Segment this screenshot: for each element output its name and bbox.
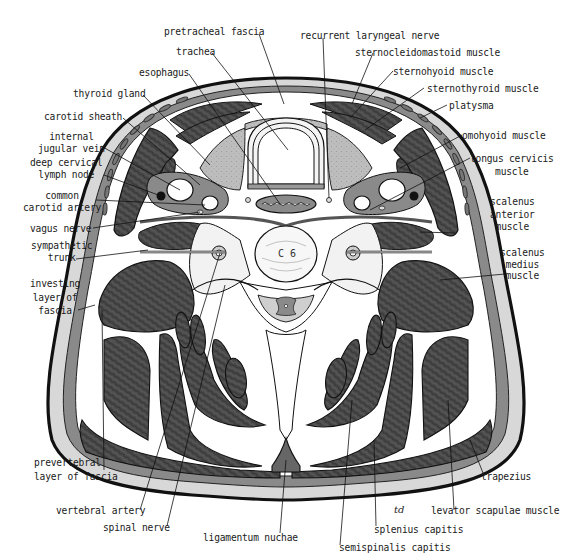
label-scalenus-anterior-muscle: scalenus anterior muscle [490,196,535,234]
vertebra-level-label: C 6 [278,248,296,259]
label-thyroid-gland: thyroid gland [73,88,146,100]
label-omohyoid-muscle: omohyoid muscle [462,130,546,142]
label-pretracheal-fascia: pretracheal fascia [164,26,264,38]
label-common-carotid-artery: common carotid artery [23,190,101,213]
label-esophagus: esophagus [139,67,189,79]
label-deep-cervical-lymph-node: deep cervical lymph node [30,157,103,180]
label-semispinalis-capitis: semispinalis capitis [339,542,451,553]
label-ligamentum-nuchae: ligamentum nuchae [203,532,298,544]
label-scalenus-medius-muscle: scalenus medius muscle [500,247,545,282]
label-levator-scapulae-muscle: levator scapulae muscle [431,505,559,517]
label-recurrent-laryngeal-nerve: recurrent laryngeal nerve [300,30,439,42]
label-platysma: platysma [449,100,494,112]
right-internal-jugular-vein [379,179,405,201]
artist-signature: td [394,504,404,515]
trachea [248,118,324,189]
left-recurrent-laryngeal-nerve [246,198,251,203]
esophagus [256,195,316,213]
label-internal-jugular-vein: internal jugular vein [38,131,105,154]
label-sternocleidomastoid-muscle: sternocleidomastoid muscle [355,47,500,59]
label-splenius-capitis: splenius capitis [374,524,463,536]
label-carotid-sheath: carotid sheath [44,111,122,123]
right-recurrent-laryngeal-nerve [327,198,332,203]
label-trachea: trachea [176,46,215,58]
label-sternothyroid-muscle: sternothyroid muscle [427,83,539,95]
left-common-carotid-artery [202,196,218,210]
right-deep-cervical-lymph-node [410,192,419,201]
neck-cross-section-figure: C 6 td pretracheal fascia trachea esopha… [0,0,572,553]
right-vagus-nerve [379,206,385,210]
label-sympathetic-trunk: sympathetic trunk [31,240,92,263]
label-sternohyoid-muscle: sternohyoid muscle [393,66,493,78]
label-longus-cervicis-muscle: longus cervicis muscle [470,152,554,178]
label-vagus-nerve: vagus nerve [30,223,91,235]
label-trapezius: trapezius [481,471,531,483]
right-common-carotid-artery [354,196,370,210]
label-vertebral-artery: vertebral artery [56,505,145,517]
label-spinal-nerve: spinal nerve [103,522,170,534]
label-prevertebral-layer-of-fascia: prevertebral layer of fascia [34,456,118,484]
label-investing-layer-of-fascia: investing layer of fascia [30,277,80,318]
